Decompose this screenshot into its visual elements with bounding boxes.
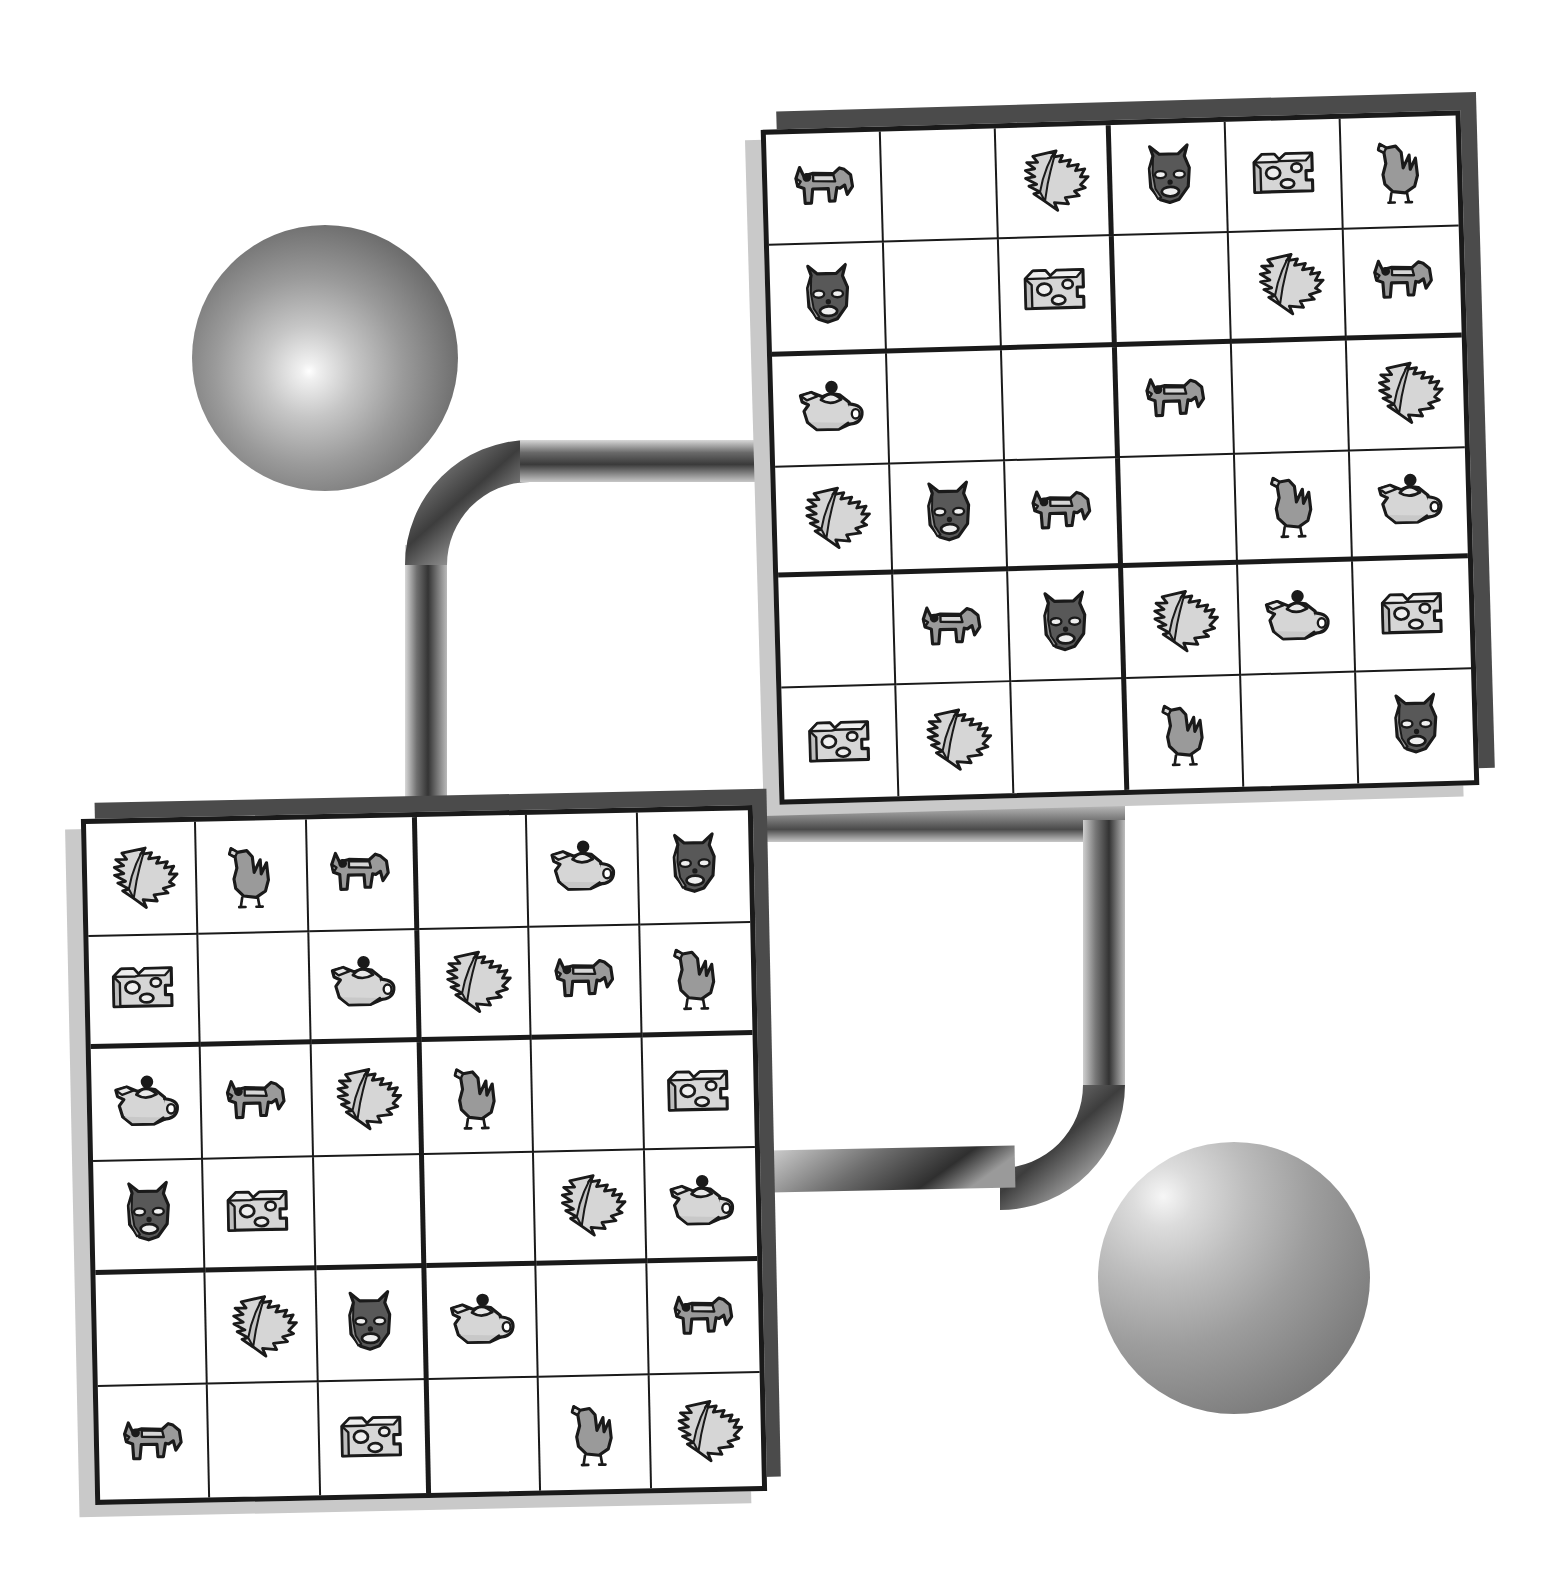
- teapot-icon: [322, 948, 403, 1022]
- board-sheet[interactable]: [761, 110, 1480, 804]
- grid-cell-empty[interactable]: [1241, 673, 1359, 787]
- dog-icon: [783, 150, 865, 224]
- cheese-wedge-icon: [218, 1175, 299, 1249]
- grid-cell[interactable]: [309, 930, 422, 1045]
- grid-cell[interactable]: [996, 125, 1114, 239]
- grid-cell[interactable]: [766, 132, 884, 246]
- grid-cell[interactable]: [307, 817, 420, 932]
- serrated-leaf-icon: [792, 481, 874, 555]
- grid-cell[interactable]: [196, 819, 309, 934]
- grid-cell-empty[interactable]: [1011, 679, 1129, 793]
- grid-cell[interactable]: [769, 242, 887, 356]
- cat-mask-icon: [1374, 689, 1456, 763]
- grid-cell[interactable]: [645, 1148, 758, 1263]
- cat-mask-icon: [329, 1287, 410, 1361]
- dog-icon: [1362, 244, 1444, 318]
- grid-cell-empty[interactable]: [532, 1038, 645, 1153]
- grid-cell[interactable]: [311, 1042, 424, 1157]
- cat-mask-icon: [1128, 141, 1210, 215]
- duck-icon: [1359, 134, 1441, 208]
- grid-cell-empty[interactable]: [778, 575, 896, 689]
- grid-cell[interactable]: [1117, 343, 1235, 457]
- grid-cell[interactable]: [88, 934, 201, 1049]
- top-right-grid[interactable]: [761, 110, 1480, 804]
- grid-cell[interactable]: [98, 1385, 211, 1500]
- grid-cell[interactable]: [530, 925, 643, 1040]
- duck-icon: [554, 1396, 635, 1470]
- grid-cell[interactable]: [318, 1380, 431, 1495]
- bottom-left-grid[interactable]: [81, 805, 767, 1505]
- dog-icon: [320, 837, 401, 911]
- grid-cell-empty[interactable]: [424, 1153, 537, 1268]
- cat-mask-icon: [653, 830, 734, 904]
- grid-cell[interactable]: [896, 682, 1014, 796]
- grid-cell[interactable]: [893, 571, 1011, 685]
- grid-cell[interactable]: [775, 464, 893, 578]
- grid-cell[interactable]: [890, 461, 1008, 575]
- grid-cell-empty[interactable]: [314, 1155, 427, 1270]
- serrated-leaf-icon: [434, 946, 515, 1020]
- grid-cell[interactable]: [86, 822, 199, 937]
- grid-cell[interactable]: [527, 812, 640, 927]
- grid-cell-empty[interactable]: [199, 932, 312, 1047]
- teapot-icon: [1255, 581, 1337, 655]
- grid-cell-empty[interactable]: [1002, 347, 1120, 461]
- grid-cell[interactable]: [1350, 448, 1468, 562]
- grid-cell[interactable]: [1229, 229, 1347, 343]
- grid-cell[interactable]: [206, 1270, 319, 1385]
- grid-cell[interactable]: [1235, 451, 1353, 565]
- grid-cell[interactable]: [1353, 559, 1471, 673]
- grid-cell[interactable]: [772, 353, 890, 467]
- grid-cell[interactable]: [426, 1265, 539, 1380]
- grid-cell-empty[interactable]: [95, 1272, 208, 1387]
- grid-cell[interactable]: [642, 1035, 755, 1150]
- grid-cell[interactable]: [1126, 676, 1244, 790]
- grid-cell[interactable]: [1347, 337, 1465, 451]
- grid-cell[interactable]: [201, 1045, 314, 1160]
- board-sheet[interactable]: [81, 805, 767, 1505]
- grid-cell[interactable]: [1008, 568, 1126, 682]
- dog-icon: [910, 590, 992, 664]
- teapot-icon: [105, 1067, 186, 1141]
- serrated-leaf-icon: [913, 702, 995, 776]
- teapot-icon: [542, 832, 623, 906]
- grid-cell-empty[interactable]: [417, 815, 530, 930]
- serrated-leaf-icon: [324, 1062, 405, 1136]
- grid-cell-empty[interactable]: [1114, 233, 1232, 347]
- grid-cell[interactable]: [640, 923, 753, 1038]
- grid-cell[interactable]: [781, 685, 899, 799]
- grid-cell-empty[interactable]: [208, 1383, 321, 1498]
- grid-cell[interactable]: [1341, 115, 1459, 229]
- grid-cell-empty[interactable]: [881, 128, 999, 242]
- grid-cell[interactable]: [1238, 562, 1356, 676]
- grid-cell[interactable]: [1005, 458, 1123, 572]
- grid-cell[interactable]: [1356, 669, 1474, 783]
- grid-cell[interactable]: [999, 236, 1117, 350]
- grid-cell[interactable]: [1123, 565, 1241, 679]
- serrated-leaf-icon: [665, 1394, 746, 1468]
- grid-cell-empty[interactable]: [887, 350, 1005, 464]
- grid-cell-empty[interactable]: [1232, 340, 1350, 454]
- grid-cell[interactable]: [93, 1160, 206, 1275]
- grid-cell-empty[interactable]: [429, 1378, 542, 1493]
- grid-cell[interactable]: [422, 1040, 535, 1155]
- grid-cell[interactable]: [649, 1373, 762, 1488]
- grid-cell[interactable]: [91, 1047, 204, 1162]
- grid-cell-empty[interactable]: [884, 239, 1002, 353]
- grid-cell[interactable]: [1111, 122, 1229, 236]
- grid-cell[interactable]: [638, 810, 751, 925]
- dog-icon: [1021, 475, 1103, 549]
- duck-icon: [436, 1060, 517, 1134]
- grid-cell[interactable]: [647, 1261, 760, 1376]
- grid-cell[interactable]: [419, 927, 532, 1042]
- grid-cell-empty[interactable]: [537, 1263, 650, 1378]
- grid-cell[interactable]: [1344, 226, 1462, 340]
- grid-cell[interactable]: [534, 1150, 647, 1265]
- grid-cell[interactable]: [1226, 119, 1344, 233]
- grid-cell[interactable]: [539, 1376, 652, 1491]
- grid-cell[interactable]: [316, 1268, 429, 1383]
- duck-icon: [1252, 468, 1334, 542]
- duck-icon: [655, 941, 736, 1015]
- grid-cell[interactable]: [203, 1157, 316, 1272]
- grid-cell-empty[interactable]: [1120, 454, 1238, 568]
